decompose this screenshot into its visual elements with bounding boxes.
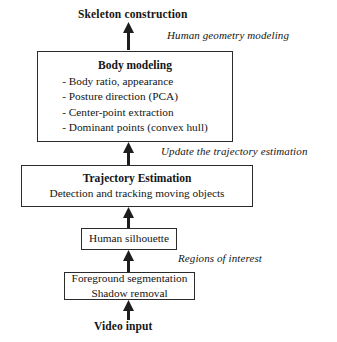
node-human-silhouette-title: Human silhouette <box>89 231 169 246</box>
video-input-label: Video input <box>94 320 153 332</box>
node-foreground-segmentation-line1: Foreground segmentation <box>72 271 188 286</box>
edge-label-update-trajectory-estimation: Update the trajectory estimation <box>161 146 307 158</box>
arrow-foreground-to-silhouette <box>120 250 137 273</box>
node-foreground-segmentation-line2: Shadow removal <box>91 286 167 301</box>
node-trajectory-estimation[interactable]: Trajectory Estimation Detection and trac… <box>21 165 253 207</box>
arrow-video-input-to-foreground <box>120 300 137 320</box>
list-item: - Posture direction (PCA) <box>62 89 208 104</box>
node-trajectory-estimation-subtitle: Detection and tracking moving objects <box>49 186 224 201</box>
node-body-modeling-list: - Body ratio, appearance - Posture direc… <box>62 74 208 135</box>
arrow-trajectory-to-body-modeling <box>120 142 137 166</box>
list-item: - Dominant points (convex hull) <box>62 120 208 135</box>
node-body-modeling[interactable]: Body modeling - Body ratio, appearance -… <box>37 51 233 142</box>
node-trajectory-estimation-title: Trajectory Estimation <box>83 171 192 185</box>
node-human-silhouette[interactable]: Human silhouette <box>81 228 177 250</box>
edge-label-regions-of-interest: Regions of interest <box>178 253 262 265</box>
list-item: - Center-point extraction <box>62 105 208 120</box>
list-item: - Body ratio, appearance <box>62 74 208 89</box>
node-foreground-segmentation[interactable]: Foreground segmentation Shadow removal <box>64 272 195 300</box>
edge-label-human-geometry-modeling: Human geometry modeling <box>167 30 289 42</box>
skeleton-construction-label: Skeleton construction <box>78 8 188 20</box>
arrow-body-modeling-to-skeleton <box>120 22 137 50</box>
flowchart-diagram: Skeleton construction Human geometry mod… <box>0 0 337 342</box>
node-body-modeling-title: Body modeling <box>98 58 172 72</box>
arrow-silhouette-to-trajectory <box>120 207 137 229</box>
